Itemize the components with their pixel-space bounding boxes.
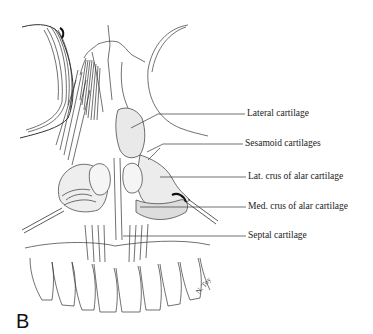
leader-lateral: [131, 114, 245, 128]
upper-teeth: [30, 258, 210, 312]
left-orbit: [20, 25, 73, 138]
label-med-crus-alar: Med. crus of alar cartilage: [248, 201, 348, 212]
label-lat-crus-alar: Lat. crus of alar cartilage: [248, 171, 343, 182]
anatomical-illustration: N. Toy: [0, 0, 373, 334]
leader-sesamoid: [147, 144, 243, 160]
right-orbit: [148, 25, 208, 136]
label-lateral-cartilage: Lateral cartilage: [247, 108, 309, 119]
artist-signature: N. Toy: [194, 275, 213, 295]
label-sesamoid-cartilages: Sesamoid cartilages: [245, 138, 321, 149]
panel-letter: B: [16, 310, 29, 332]
septal-cartilage-shape: [114, 158, 122, 240]
label-septal-cartilage: Septal cartilage: [248, 230, 307, 241]
lateral-cartilage-shape: [116, 108, 145, 158]
